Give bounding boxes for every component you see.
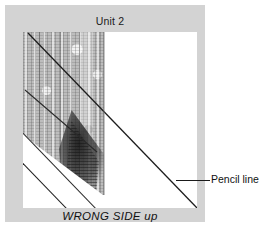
leader-line-icon: [176, 180, 210, 181]
pencil-line-callout-label: Pencil line: [211, 173, 259, 185]
paper-field: [23, 32, 197, 208]
main-diagonal-pencil-line: [28, 33, 197, 208]
figure-mount-panel: Unit 2 WRONG SIDE up: [5, 5, 205, 222]
pencil-line-overlay: [23, 32, 197, 208]
secondary-diagonal-pencil-line: [25, 90, 97, 152]
figure-root: Unit 2 WRONG SIDE up Pencil li: [0, 0, 261, 230]
figure-caption: WRONG SIDE up: [23, 210, 197, 222]
figure-title: Unit 2: [23, 15, 197, 27]
